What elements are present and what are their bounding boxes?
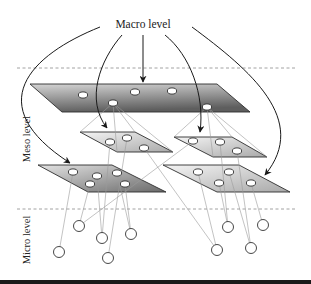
micro-node <box>212 245 223 256</box>
plane-node <box>108 100 117 106</box>
plane-node <box>130 89 139 95</box>
connection-line <box>59 172 73 252</box>
multilevel-diagram: Macro level Meso level Micro level <box>0 0 311 284</box>
micro-level-label: Micro level <box>21 216 32 265</box>
connection-line <box>108 138 127 258</box>
plane-node <box>193 169 202 175</box>
macro-plane <box>30 84 250 112</box>
connection-line <box>237 151 251 248</box>
plane-node <box>214 180 223 186</box>
macro-level-label: Macro level <box>115 18 170 30</box>
connection-line <box>144 148 217 250</box>
plane-node <box>167 88 176 94</box>
plane-node <box>188 138 197 144</box>
meso-level-label: Meso level <box>21 116 32 162</box>
micro-node <box>103 253 114 264</box>
plane-node <box>232 148 241 154</box>
micro-node <box>126 229 137 240</box>
plane-node <box>78 92 87 98</box>
plane-node <box>68 169 77 175</box>
plane-group <box>30 84 290 192</box>
plane-node <box>224 169 233 175</box>
plane-node <box>92 173 101 179</box>
micro-node <box>97 233 108 244</box>
plane-node <box>120 181 129 187</box>
plane-node <box>112 170 121 176</box>
plane-node <box>246 180 255 186</box>
micro-node <box>223 222 234 233</box>
plane-node <box>202 104 211 110</box>
plane-node <box>105 139 114 145</box>
micro-node <box>74 221 85 232</box>
meso-plane-lower-left <box>38 165 166 192</box>
micro-node <box>258 220 269 231</box>
plane-node <box>139 145 148 151</box>
micro-node <box>246 243 257 254</box>
plane-node <box>122 135 131 141</box>
plane-node <box>215 139 224 145</box>
bottom-rule <box>0 280 311 284</box>
micro-node <box>54 247 65 258</box>
plane-node <box>85 181 94 187</box>
